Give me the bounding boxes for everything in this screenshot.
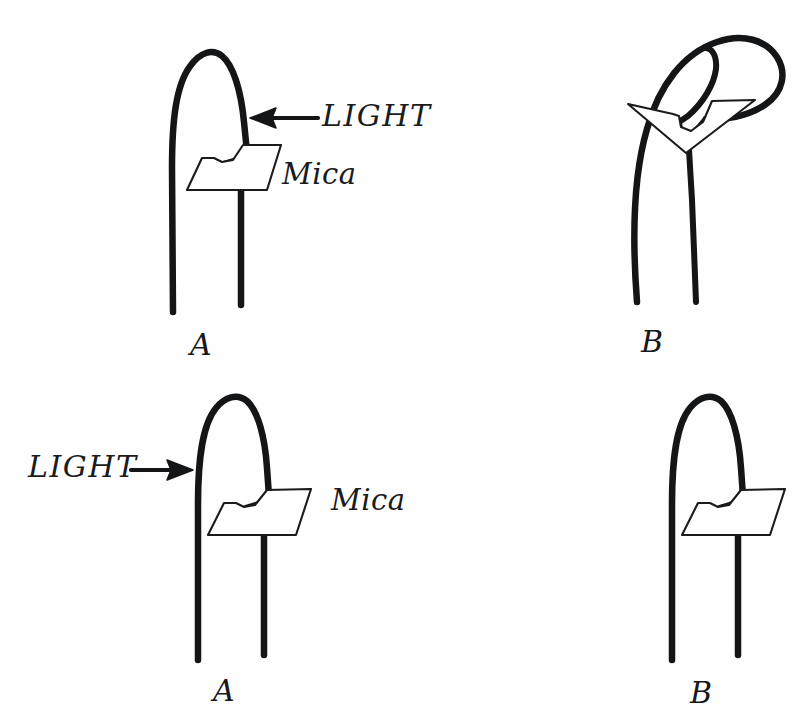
- coleoptile-outer-curve-top-right: [634, 38, 782, 302]
- figure-canvas: LIGHT Mica LIGHT Mica A B A B: [0, 0, 806, 724]
- panel-bottom-left-drawing: [131, 397, 311, 660]
- panel-label-a-bottom: A: [213, 676, 235, 706]
- coleoptile-stem-top-right: [689, 150, 696, 302]
- light-label-top: LIGHT: [322, 101, 431, 131]
- light-arrow-bottom: [131, 460, 193, 480]
- mica-plate-top-left: [187, 145, 281, 190]
- light-label-bottom: LIGHT: [28, 452, 137, 482]
- panel-label-a-top: A: [190, 330, 212, 360]
- mica-label-top: Mica: [282, 160, 357, 189]
- mica-plate-bottom-left: [208, 489, 311, 535]
- light-arrow-top: [250, 108, 318, 128]
- panel-bottom-right-drawing: [672, 397, 785, 660]
- panel-label-b-bottom: B: [690, 678, 713, 708]
- mica-label-bottom: Mica: [331, 486, 406, 515]
- mica-plate-bottom-right: [682, 489, 785, 535]
- panel-top-right-drawing: [628, 38, 782, 302]
- panel-label-b-top: B: [641, 327, 664, 357]
